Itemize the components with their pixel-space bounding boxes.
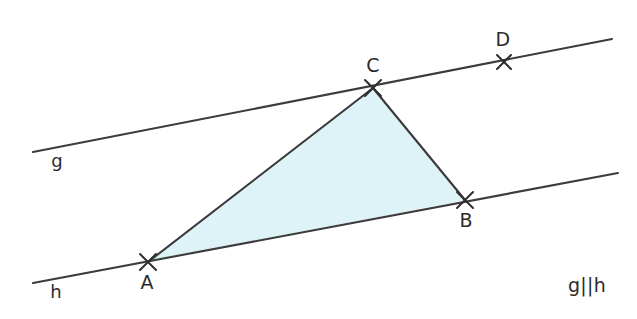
diagram-canvas: A B C D g h g||h xyxy=(0,0,637,319)
point-label-d: D xyxy=(496,28,511,50)
triangle-abc-fill xyxy=(148,88,465,262)
line-label-g: g xyxy=(51,150,62,171)
line-label-h: h xyxy=(50,281,61,302)
point-label-b: B xyxy=(459,209,472,231)
point-label-c: C xyxy=(366,54,379,76)
parallel-relation-label: g||h xyxy=(568,274,606,297)
geometry-diagram: A B C D g h g||h xyxy=(0,0,637,319)
point-label-a: A xyxy=(140,271,153,293)
